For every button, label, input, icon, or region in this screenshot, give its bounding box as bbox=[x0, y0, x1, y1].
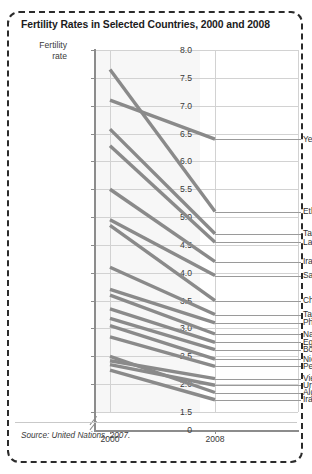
slope-line bbox=[110, 69, 215, 211]
y-axis-title-line1: Fertility bbox=[15, 40, 67, 51]
label-leader-line bbox=[215, 212, 301, 213]
label-leader-line bbox=[215, 350, 301, 351]
y-tick-label: 0 bbox=[158, 425, 192, 435]
footer-divider bbox=[15, 422, 297, 423]
slope-line bbox=[110, 318, 215, 349]
label-leader-line bbox=[215, 366, 301, 367]
series-label: Peru bbox=[303, 362, 312, 371]
label-leader-line bbox=[215, 359, 301, 360]
y-axis-title: Fertility rate bbox=[15, 40, 67, 61]
series-label: Chad bbox=[303, 296, 312, 305]
series-label: Iraq bbox=[303, 257, 312, 266]
x-tick-mark bbox=[215, 430, 216, 434]
label-leader-line bbox=[215, 393, 301, 394]
label-leader-line bbox=[215, 315, 301, 316]
series-label: Ethiopia bbox=[303, 207, 312, 216]
series-label: Bolivia bbox=[303, 345, 312, 354]
label-leader-line bbox=[215, 301, 301, 302]
label-leader-line bbox=[215, 385, 301, 386]
plot-area: 01.52.02.53.03.54.04.55.05.56.06.57.07.5… bbox=[95, 50, 200, 412]
slope-line bbox=[110, 100, 215, 139]
slope-line bbox=[110, 129, 215, 234]
series-label: Saudi Arabia bbox=[303, 271, 312, 280]
label-leader-line bbox=[215, 276, 301, 277]
source-note: Source: United Nations, 2007. bbox=[21, 431, 130, 440]
label-leader-line bbox=[215, 400, 301, 401]
label-leader-line bbox=[215, 262, 301, 263]
label-leader-line bbox=[215, 234, 301, 235]
series-label: Yemen bbox=[303, 135, 312, 144]
chart-title: Fertility Rates in Selected Countries, 2… bbox=[21, 18, 301, 31]
chart-page: Fertility Rates in Selected Countries, 2… bbox=[0, 0, 312, 474]
y-axis-title-line2: rate bbox=[15, 51, 67, 62]
label-leader-line bbox=[215, 323, 301, 324]
series-label: Philippines bbox=[303, 318, 312, 327]
chart-card: Fertility Rates in Selected Countries, 2… bbox=[15, 18, 297, 456]
label-leader-line bbox=[215, 334, 301, 335]
label-leader-line bbox=[215, 379, 301, 380]
label-leader-line bbox=[215, 342, 301, 343]
series-label: Iran bbox=[303, 395, 312, 404]
x-tick-label: 2008 bbox=[205, 434, 224, 444]
label-leader-line bbox=[215, 242, 301, 243]
label-leader-line bbox=[215, 139, 301, 140]
series-label: Laos bbox=[303, 238, 312, 247]
